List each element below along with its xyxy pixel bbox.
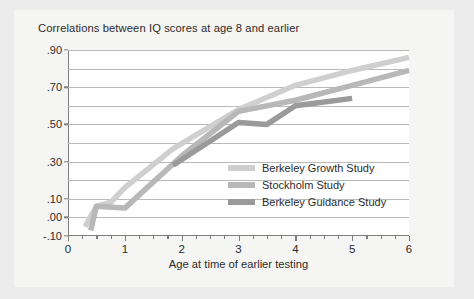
series-lines bbox=[68, 50, 409, 236]
x-tick-label: 5 bbox=[349, 243, 355, 255]
x-tick-label: 4 bbox=[292, 243, 298, 255]
legend-item: Stockholm Study bbox=[228, 179, 386, 191]
x-axis-label: Age at time of earlier testing bbox=[68, 258, 409, 270]
x-minor-tick-mark bbox=[224, 236, 225, 239]
x-minor-tick-mark bbox=[82, 236, 83, 239]
x-tick-mark bbox=[295, 236, 296, 241]
x-tick-mark bbox=[239, 236, 240, 241]
legend-swatch bbox=[228, 182, 255, 188]
x-tick-label: 3 bbox=[235, 243, 241, 255]
x-minor-tick-mark bbox=[338, 236, 339, 239]
x-minor-tick-mark bbox=[210, 236, 211, 239]
y-tick-label: .70 bbox=[47, 81, 62, 93]
legend-swatch bbox=[228, 165, 255, 171]
x-tick-label: 0 bbox=[65, 243, 71, 255]
legend-item: Berkeley Growth Study bbox=[228, 162, 386, 174]
x-minor-tick-mark bbox=[281, 236, 282, 239]
legend-label: Berkeley Growth Study bbox=[262, 162, 375, 174]
figure-container: Correlations between IQ scores at age 8 … bbox=[0, 0, 474, 299]
x-tick-mark bbox=[182, 236, 183, 241]
x-minor-tick-mark bbox=[139, 236, 140, 239]
x-minor-tick-mark bbox=[366, 236, 367, 239]
y-tick-label: .90 bbox=[47, 44, 62, 56]
x-tick-mark bbox=[409, 236, 410, 241]
legend-label: Stockholm Study bbox=[262, 179, 345, 191]
y-tick-label: .00 bbox=[47, 211, 62, 223]
y-tick-label: .30 bbox=[47, 156, 62, 168]
x-minor-tick-mark bbox=[153, 236, 154, 239]
y-tick-label: .10 bbox=[47, 193, 62, 205]
x-tick-mark bbox=[68, 236, 69, 241]
x-minor-tick-mark bbox=[310, 236, 311, 239]
x-tick-label: 6 bbox=[406, 243, 412, 255]
legend-item: Berkeley Guidance Study bbox=[228, 196, 386, 208]
x-minor-tick-mark bbox=[253, 236, 254, 239]
x-tick-mark bbox=[125, 236, 126, 241]
x-tick-label: 2 bbox=[178, 243, 184, 255]
x-minor-tick-mark bbox=[96, 236, 97, 239]
x-minor-tick-mark bbox=[381, 236, 382, 239]
x-minor-tick-mark bbox=[324, 236, 325, 239]
plot-area: .90.70.50.30.10.00-.10 0123456 bbox=[68, 50, 409, 236]
y-tick-label: .50 bbox=[47, 118, 62, 130]
chart-title: Correlations between IQ scores at age 8 … bbox=[38, 22, 299, 34]
x-minor-tick-mark bbox=[395, 236, 396, 239]
legend-label: Berkeley Guidance Study bbox=[262, 196, 386, 208]
x-tick-label: 1 bbox=[122, 243, 128, 255]
x-minor-tick-mark bbox=[196, 236, 197, 239]
legend-swatch bbox=[228, 199, 255, 205]
x-minor-tick-mark bbox=[267, 236, 268, 239]
x-tick-mark bbox=[352, 236, 353, 241]
chart-legend: Berkeley Growth StudyStockholm StudyBerk… bbox=[228, 162, 386, 208]
y-tick-label: -.10 bbox=[43, 230, 62, 242]
x-minor-tick-mark bbox=[167, 236, 168, 239]
x-minor-tick-mark bbox=[111, 236, 112, 239]
